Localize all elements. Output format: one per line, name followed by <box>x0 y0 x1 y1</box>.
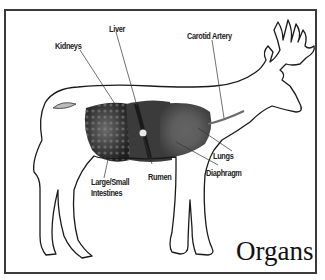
label-diaphragm: Diaphragm <box>206 168 242 178</box>
label-rumen: Rumen <box>148 172 171 182</box>
diagram-title: Organs <box>236 236 314 266</box>
label-intestines-line1: Large/Small <box>91 177 129 187</box>
label-liver: Liver <box>109 24 125 34</box>
label-intestines-line2: Intestines <box>91 188 122 198</box>
label-carotid-artery: Carotid Artery <box>187 31 232 41</box>
label-kidneys: Kidneys <box>55 41 81 51</box>
label-lungs: Lungs <box>213 151 234 161</box>
carotid-artery <box>208 111 244 124</box>
